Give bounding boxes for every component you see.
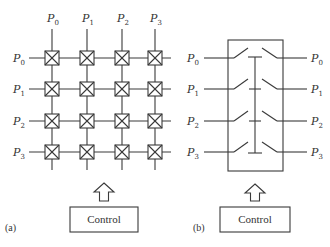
crossed-box-icon [148,51,162,65]
caption-a: (a) [5,222,16,234]
control-label-a: Control [87,213,121,225]
row-label-2: P2 [12,115,25,130]
panel-b-bus-switch: P0 P1 P2 P3 P0 P1 P2 P3 [186,40,323,234]
col-label-0: P0 [46,12,59,27]
open-switch-icon [262,111,307,121]
crossed-box-icon [80,145,94,159]
crossed-box-icon [80,51,94,65]
right-label-0: P0 [310,52,323,67]
interconnect-diagram: P0 P1 P2 P3 P0 P1 P2 P3 [0,0,330,247]
left-label-0: P0 [186,52,199,67]
open-switch-icon [204,142,248,152]
left-labels: P0 P1 P2 P3 [186,52,199,161]
left-switches [204,48,248,152]
column-labels: P0 P1 P2 P3 [46,12,162,27]
crossed-box-icon [80,114,94,128]
open-switch-icon [204,111,248,121]
open-switch-icon [204,79,248,89]
right-label-1: P1 [310,83,323,98]
row-labels: P0 P1 P2 P3 [12,52,25,161]
crossed-box-icon [45,51,59,65]
row-wires [29,58,171,152]
crossed-box-icon [115,145,129,159]
left-label-2: P2 [186,115,199,130]
up-arrow-icon [94,183,114,201]
open-switch-icon [262,79,307,89]
caption-b: (b) [193,222,205,234]
crossed-box-icon [148,82,162,96]
row-label-3: P3 [12,146,25,161]
crossed-box-icon [148,145,162,159]
right-labels: P0 P1 P2 P3 [310,52,323,161]
col-label-2: P2 [116,12,129,27]
control-label-b: Control [238,213,272,225]
crossed-box-icon [45,82,59,96]
control-box-b: Control [220,207,290,232]
panel-a-crossbar: P0 P1 P2 P3 P0 P1 P2 P3 [5,12,171,234]
crossed-box-icon [148,114,162,128]
open-switch-icon [262,142,307,152]
right-label-2: P2 [310,115,323,130]
control-box-a: Control [70,207,138,232]
crossed-box-icon [45,114,59,128]
open-switch-icon [204,48,248,58]
crossed-box-icon [45,145,59,159]
row-label-0: P0 [12,52,25,67]
row-label-1: P1 [12,83,25,98]
left-label-3: P3 [186,146,199,161]
crossed-box-icon [115,114,129,128]
open-switch-icon [262,48,307,58]
crossbar-switches [45,51,162,159]
right-switches [262,48,307,152]
column-wires [52,29,155,170]
right-label-3: P3 [310,146,323,161]
left-label-1: P1 [186,83,199,98]
central-bus [248,57,262,153]
crossed-box-icon [80,82,94,96]
col-label-1: P1 [81,12,94,27]
crossed-box-icon [115,82,129,96]
diagram-svg: P0 P1 P2 P3 P0 P1 P2 P3 [0,0,330,247]
crossed-box-icon [115,51,129,65]
col-label-3: P3 [149,12,162,27]
up-arrow-icon [245,184,265,201]
